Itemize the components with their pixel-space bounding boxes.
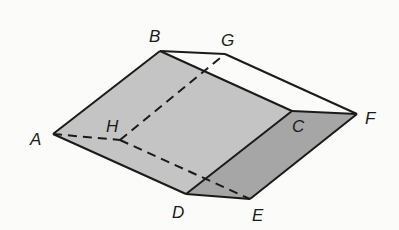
prism-svg: A B G H C F D E <box>0 0 399 230</box>
label-a: A <box>29 130 41 149</box>
label-c: C <box>292 117 305 136</box>
label-b: B <box>149 27 160 46</box>
label-d: D <box>172 203 184 222</box>
label-f: F <box>365 109 377 128</box>
prism-diagram: A B G H C F D E <box>0 0 399 230</box>
label-e: E <box>252 206 264 225</box>
label-g: G <box>221 31 234 50</box>
label-h: H <box>106 117 119 136</box>
